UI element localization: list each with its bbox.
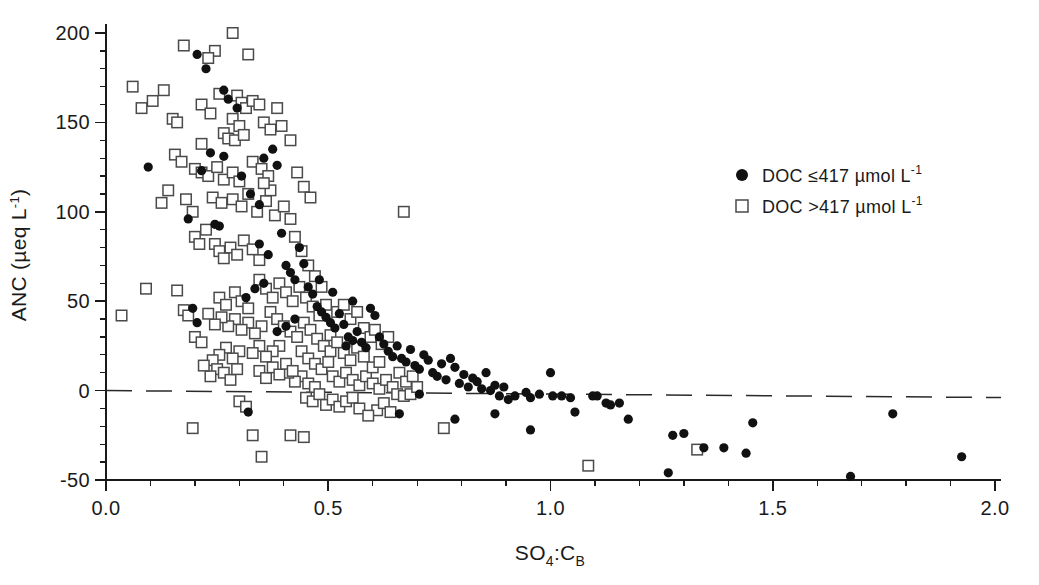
data-point-open-square xyxy=(272,103,283,114)
data-point-filled-circle xyxy=(330,323,339,332)
legend-open-square-icon xyxy=(736,200,748,212)
data-point-filled-circle xyxy=(193,50,202,59)
data-point-filled-circle xyxy=(224,95,233,104)
data-point-open-square xyxy=(212,162,223,173)
legend-entry-0-text: DOC ≤417 µmol L-1 xyxy=(762,163,922,186)
data-point-filled-circle xyxy=(406,345,415,354)
data-point-filled-circle xyxy=(144,163,153,172)
data-point-open-square xyxy=(323,357,334,368)
y-tick-label: 200 xyxy=(55,22,90,44)
data-point-filled-circle xyxy=(184,214,193,223)
x-tick-label: 2.0 xyxy=(980,497,1009,519)
data-point-filled-circle xyxy=(219,86,228,95)
data-point-filled-circle xyxy=(606,400,615,409)
data-point-filled-circle xyxy=(353,327,362,336)
x-tick-label: 0.0 xyxy=(91,497,120,519)
data-point-filled-circle xyxy=(259,279,268,288)
data-point-open-square xyxy=(163,185,174,196)
y-tick-label: 150 xyxy=(55,111,90,133)
data-point-open-square xyxy=(147,96,158,107)
legend-0-exponent: -1 xyxy=(911,163,922,177)
data-point-open-square xyxy=(172,285,183,296)
data-point-filled-circle xyxy=(295,243,304,252)
y-title-sup: -1 xyxy=(7,196,22,208)
data-point-open-square xyxy=(385,407,396,418)
data-point-filled-circle xyxy=(328,288,337,297)
legend-entry-1-text: DOC >417 µmol L-1 xyxy=(762,194,923,217)
data-point-open-square xyxy=(203,53,214,64)
data-point-filled-circle xyxy=(481,368,490,377)
data-point-open-square xyxy=(116,310,127,321)
y-tick-label: 0 xyxy=(78,380,90,402)
data-point-open-square xyxy=(247,430,258,441)
data-point-open-square xyxy=(216,198,227,209)
data-point-open-square xyxy=(196,337,207,348)
data-point-open-square xyxy=(299,182,310,193)
data-point-filled-circle xyxy=(201,64,210,73)
data-point-filled-circle xyxy=(341,341,350,350)
data-point-filled-circle xyxy=(526,425,535,434)
legend-0-value: 417 xyxy=(818,166,849,186)
data-point-filled-circle xyxy=(339,320,348,329)
legend-0-operator: ≤ xyxy=(808,166,818,186)
data-point-filled-circle xyxy=(348,297,357,306)
data-point-open-square xyxy=(363,410,374,421)
data-point-filled-circle xyxy=(233,103,242,112)
x-tick-label: 1.5 xyxy=(758,497,787,519)
data-point-open-square xyxy=(127,81,138,92)
data-point-filled-circle xyxy=(441,375,450,384)
data-point-open-square xyxy=(250,328,261,339)
data-point-open-square xyxy=(225,375,236,386)
data-point-filled-circle xyxy=(290,314,299,323)
data-point-filled-circle xyxy=(748,418,757,427)
data-point-filled-circle xyxy=(277,229,286,238)
data-point-filled-circle xyxy=(741,449,750,458)
data-point-open-square xyxy=(205,108,216,119)
data-point-filled-circle xyxy=(490,409,499,418)
data-point-open-square xyxy=(205,371,216,382)
data-point-filled-circle xyxy=(446,354,455,363)
data-point-filled-circle xyxy=(273,327,282,336)
data-point-open-square xyxy=(201,224,212,235)
data-point-open-square xyxy=(305,192,316,203)
data-point-filled-circle xyxy=(361,343,370,352)
data-point-open-square xyxy=(243,303,254,314)
data-point-open-square xyxy=(176,156,187,167)
data-point-open-square xyxy=(261,351,272,362)
data-point-open-square xyxy=(265,124,276,135)
data-point-filled-circle xyxy=(308,289,317,298)
data-point-filled-circle xyxy=(290,275,299,284)
legend-1-prefix: DOC xyxy=(762,197,803,217)
data-point-filled-circle xyxy=(264,250,273,259)
data-point-open-square xyxy=(439,423,450,434)
data-point-open-square xyxy=(299,432,310,443)
data-point-filled-circle xyxy=(490,381,499,390)
data-point-open-square xyxy=(141,283,152,294)
data-point-open-square xyxy=(347,393,358,404)
data-point-filled-circle xyxy=(664,468,673,477)
data-point-filled-circle xyxy=(615,399,624,408)
data-point-filled-circle xyxy=(215,222,224,231)
data-point-filled-circle xyxy=(433,372,442,381)
data-point-open-square xyxy=(339,300,350,311)
data-point-open-square xyxy=(254,255,264,265)
data-point-filled-circle xyxy=(424,356,433,365)
data-point-open-square xyxy=(247,348,258,359)
scatter-plot: -50050100150200 0.00.51.01.52.0 ANC (µeq… xyxy=(0,0,1039,585)
data-point-filled-circle xyxy=(593,391,602,400)
data-point-filled-circle xyxy=(957,452,966,461)
y-axis-title-text: ANC (µeq L-1) xyxy=(7,189,30,322)
data-point-filled-circle xyxy=(259,154,268,163)
data-point-filled-circle xyxy=(415,390,424,399)
x-title-base1: SO xyxy=(515,541,546,564)
data-point-open-square xyxy=(276,121,287,132)
data-point-filled-circle xyxy=(241,293,250,302)
data-point-filled-circle xyxy=(719,443,728,452)
data-point-open-square xyxy=(261,373,272,384)
series-doc-low-points xyxy=(144,50,967,481)
data-point-open-square xyxy=(203,308,214,319)
data-point-open-square xyxy=(136,103,147,114)
legend-1-value: 417 xyxy=(819,197,850,217)
x-axis-ticks xyxy=(106,480,995,491)
data-point-filled-circle xyxy=(250,284,259,293)
